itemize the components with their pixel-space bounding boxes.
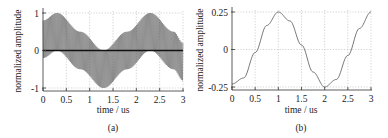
chart-b-grid: [232, 10, 371, 90]
chart-b-x-tick-label: 2: [322, 94, 327, 104]
chart-a-caption: (a): [108, 123, 119, 134]
chart-b: 00.511.522.53 -0.2500.25 time / us norma…: [195, 7, 374, 134]
chart-b-y-ticks: -0.2500.25: [208, 8, 235, 93]
chart-a-x-tick-label: 3: [181, 95, 186, 105]
chart-b-y-axis-label: normalized amplitude: [195, 8, 205, 91]
chart-a-y-tick-label: 1: [34, 9, 39, 19]
chart-b-axes: [232, 7, 372, 90]
chart-a-x-tick-label: 1: [87, 95, 92, 105]
chart-b-x-tick-label: 1.5: [296, 94, 308, 104]
chart-a-y-tick-label: -1: [31, 84, 39, 94]
chart-a-x-tick-label: 2: [134, 95, 139, 105]
chart-b-x-tick-label: 0.5: [249, 94, 261, 104]
chart-a-x-tick-label: 0: [41, 95, 46, 105]
chart-b-caption: (b): [295, 123, 306, 134]
chart-b-x-axis-label: time / us: [285, 105, 318, 115]
chart-b-y-tick-label: -0.25: [208, 83, 228, 93]
chart-b-x-ticks: 00.511.522.53: [230, 87, 374, 104]
chart-a-x-tick-label: 1.5: [107, 95, 119, 105]
figure: 00.511.522.53 -101 time / us normalized …: [0, 0, 388, 138]
chart-a-y-tick-label: 0: [34, 46, 39, 56]
chart-a-x-axis-label: time / us: [97, 105, 130, 115]
chart-a-plot-area: [43, 13, 183, 88]
chart-b-x-tick-label: 1: [276, 94, 281, 104]
chart-a-x-tick-label: 0.5: [60, 95, 72, 105]
chart-a-y-axis-label: normalized amplitude: [13, 9, 23, 92]
chart-b-x-tick-label: 2.5: [342, 94, 354, 104]
chart-a: 00.511.522.53 -101 time / us normalized …: [13, 8, 186, 134]
chart-a-x-tick-label: 2.5: [154, 95, 166, 105]
chart-b-y-tick-label: 0: [223, 45, 228, 55]
chart-b-y-tick-label: 0.25: [211, 8, 228, 18]
chart-b-x-tick-label: 0: [230, 94, 235, 104]
chart-a-x-ticks: 00.511.522.53: [41, 88, 186, 105]
chart-b-x-tick-label: 3: [369, 94, 374, 104]
